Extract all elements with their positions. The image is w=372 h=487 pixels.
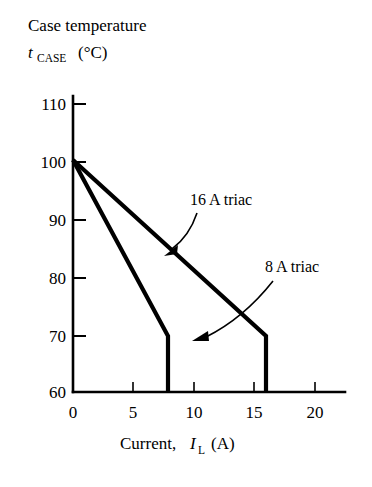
- y-tick-label-60: 60: [49, 383, 66, 402]
- series-line-8a-triac: [73, 160, 168, 392]
- y-axis-tick-labels: 110 100 90 80 70 60: [41, 95, 67, 402]
- x-axis-title-symbol-subscript: L: [198, 444, 205, 456]
- y-tick-label-110: 110: [41, 95, 66, 114]
- case-subscript: CASE: [37, 52, 66, 64]
- x-axis-title-symbol: I: [189, 434, 197, 453]
- chart-svg: Case temperature t CASE (°C) 110 100 90 …: [0, 0, 372, 487]
- y-tick-label-70: 70: [49, 327, 66, 346]
- y-axis-ticks: [73, 104, 86, 392]
- x-tick-label-15: 15: [246, 403, 263, 422]
- x-axis-ticks: [133, 382, 315, 392]
- x-tick-label-20: 20: [307, 403, 324, 422]
- chart-title-line1: Case temperature: [28, 16, 146, 35]
- annotation-16a-triac-leader: [172, 213, 197, 249]
- figure-container: Case temperature t CASE (°C) 110 100 90 …: [0, 0, 372, 487]
- y-tick-label-100: 100: [41, 153, 67, 172]
- y-tick-label-90: 90: [49, 211, 66, 230]
- case-symbol: t: [28, 43, 34, 62]
- annotation-16a-triac-label: 16 A triac: [190, 191, 252, 208]
- x-axis-title: Current, I L (A): [120, 434, 235, 456]
- case-units: (°C): [78, 43, 107, 62]
- annotation-8a-triac-arrowhead: [192, 331, 209, 341]
- annotation-16a-triac: 16 A triac: [164, 191, 252, 256]
- x-axis-tick-labels: 0 5 10 15 20: [69, 403, 324, 422]
- y-tick-label-80: 80: [49, 269, 66, 288]
- x-tick-label-0: 0: [69, 403, 78, 422]
- x-tick-label-5: 5: [129, 403, 138, 422]
- annotation-8a-triac-label: 8 A triac: [265, 258, 319, 275]
- x-axis-title-units: (A): [211, 434, 235, 453]
- x-tick-label-10: 10: [186, 403, 203, 422]
- chart-title-line2: t CASE (°C): [28, 43, 107, 64]
- x-axis-title-prefix: Current,: [120, 434, 176, 453]
